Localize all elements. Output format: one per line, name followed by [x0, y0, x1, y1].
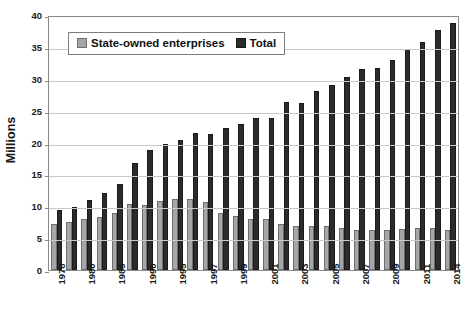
x-tick-slot	[63, 272, 78, 334]
dark-square-swatch-icon	[236, 38, 246, 48]
gridline	[49, 176, 458, 177]
x-tick-slot: 1985	[109, 272, 124, 334]
bar-total[interactable]	[132, 163, 137, 270]
bar-total[interactable]	[102, 193, 107, 270]
y-tick-label: 0	[12, 266, 42, 276]
x-tick-slot	[337, 272, 352, 334]
bar-total[interactable]	[450, 23, 455, 270]
bar-total[interactable]	[253, 118, 258, 270]
x-tick-slot: 1980	[78, 272, 93, 334]
bar-group	[367, 17, 382, 270]
x-tick-slot: 2003	[292, 272, 307, 334]
x-tick-slot: 1997	[200, 272, 215, 334]
bar-chart: Millions 0510152025303540 State-owned en…	[0, 0, 470, 334]
gridline	[49, 113, 458, 114]
y-tickmark	[45, 81, 49, 82]
bar-total[interactable]	[269, 118, 274, 270]
x-tick-slot	[246, 272, 261, 334]
legend-label: Total	[250, 37, 277, 49]
gridline	[49, 240, 458, 241]
bar-total[interactable]	[178, 140, 183, 270]
bar-total[interactable]	[147, 150, 152, 270]
bar-group	[337, 17, 352, 270]
gridline	[49, 145, 458, 146]
y-tickmark	[45, 17, 49, 18]
bar-total[interactable]	[284, 102, 289, 270]
gridline	[49, 208, 458, 209]
bar-total[interactable]	[117, 184, 122, 270]
bar-group	[306, 17, 321, 270]
y-tickmark	[45, 145, 49, 146]
y-tickmark	[45, 49, 49, 50]
bar-group	[291, 17, 306, 270]
bar-total[interactable]	[405, 49, 410, 270]
x-tick-label: 2014	[451, 263, 462, 284]
x-tick-slot	[398, 272, 413, 334]
bar-total[interactable]	[435, 30, 440, 270]
gridline	[49, 81, 458, 82]
bar-total[interactable]	[72, 207, 77, 270]
x-tick-slot	[215, 272, 230, 334]
x-tick-slot: 2007	[352, 272, 367, 334]
y-tickmark	[45, 176, 49, 177]
y-tick-label: 25	[12, 107, 42, 117]
gray-square-swatch-icon	[77, 38, 87, 48]
bar-total[interactable]	[314, 91, 319, 270]
x-tick-slot	[368, 272, 383, 334]
bar-total[interactable]	[299, 103, 304, 270]
x-tick-slot: 1978	[48, 272, 63, 334]
bar-total[interactable]	[87, 200, 92, 270]
x-tick-slot: 1999	[231, 272, 246, 334]
y-tick-label: 5	[12, 234, 42, 244]
y-axis-tick-labels: 0510152025303540	[8, 0, 42, 334]
legend-label: State-owned enterprises	[91, 37, 225, 49]
bar-group	[352, 17, 367, 270]
bar-total[interactable]	[238, 124, 243, 270]
bar-total[interactable]	[420, 42, 425, 270]
bar-group	[443, 17, 458, 270]
bar-total[interactable]	[163, 144, 168, 270]
y-tick-label: 35	[12, 43, 42, 53]
legend-item-total[interactable]: Total	[236, 37, 277, 49]
x-tick-slot: 2001	[261, 272, 276, 334]
bar-total[interactable]	[390, 60, 395, 270]
bar-group	[49, 17, 64, 270]
x-tick-slot	[124, 272, 139, 334]
x-tick-slot: 2014	[444, 272, 459, 334]
bar-total[interactable]	[193, 133, 198, 270]
x-tick-slot	[307, 272, 322, 334]
x-tick-slot: 1995	[170, 272, 185, 334]
y-tick-label: 30	[12, 75, 42, 85]
legend-item-state-owned-enterprises[interactable]: State-owned enterprises	[77, 37, 225, 49]
x-tick-slot: 2005	[322, 272, 337, 334]
bar-total[interactable]	[223, 128, 228, 270]
x-tick-slot	[276, 272, 291, 334]
chart-legend: State-owned enterprises Total	[68, 32, 285, 55]
y-tickmark	[45, 113, 49, 114]
bar-group	[397, 17, 412, 270]
x-tick-slot: 2009	[383, 272, 398, 334]
x-tick-slot	[94, 272, 109, 334]
x-tick-slot	[185, 272, 200, 334]
bar-group	[428, 17, 443, 270]
x-tick-slot	[155, 272, 170, 334]
y-tick-label: 40	[12, 11, 42, 21]
x-tick-slot	[428, 272, 443, 334]
bar-group	[382, 17, 397, 270]
bar-total[interactable]	[208, 134, 213, 270]
y-tick-label: 15	[12, 170, 42, 180]
y-tick-label: 10	[12, 202, 42, 212]
x-tick-slot: 2011	[413, 272, 428, 334]
x-axis-tick-labels: 1978198019851990199519971999200120032005…	[48, 272, 459, 334]
y-tickmark	[45, 208, 49, 209]
y-tickmark	[45, 240, 49, 241]
y-tick-label: 20	[12, 139, 42, 149]
x-tick-slot: 1990	[139, 272, 154, 334]
bar-group	[412, 17, 427, 270]
bar-group	[322, 17, 337, 270]
